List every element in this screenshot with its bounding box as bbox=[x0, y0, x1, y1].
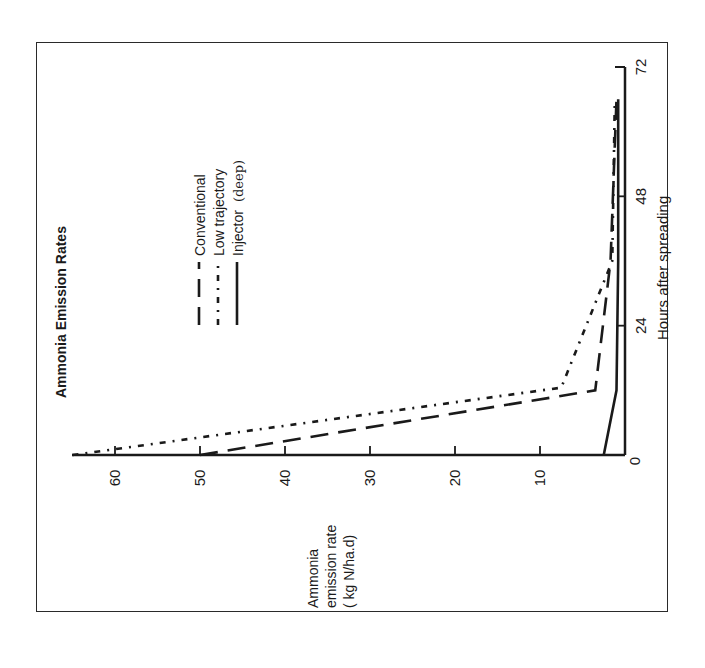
zero-label: 0 bbox=[626, 457, 643, 465]
series-lines bbox=[73, 99, 619, 455]
rate-tick-label: 40 bbox=[276, 470, 293, 487]
legend-label-suffix: (deep) bbox=[231, 160, 246, 202]
hour-tick-label: 24 bbox=[632, 317, 649, 334]
legend: Conventional Low trajectory Injector(dee… bbox=[192, 160, 246, 325]
chart-title: Ammonia Emission Rates bbox=[53, 226, 69, 398]
rate-ticks bbox=[115, 446, 540, 455]
rate-tick-labels: 102030405060 bbox=[106, 470, 548, 487]
legend-label-main: Injector bbox=[230, 210, 246, 256]
hour-tick-label: 48 bbox=[632, 188, 649, 205]
legend-item-conventional: Conventional bbox=[192, 174, 208, 325]
rate-tick-label: 30 bbox=[361, 470, 378, 487]
y-axis-label-line1: Ammonia bbox=[305, 549, 321, 608]
x-axis-label: Hours after spreading bbox=[654, 196, 671, 340]
rate-tick-label: 50 bbox=[191, 470, 208, 487]
rate-tick-label: 10 bbox=[531, 470, 548, 487]
legend-item-injector: Injector(deep) bbox=[230, 160, 246, 325]
series-line-injector-deep bbox=[604, 99, 618, 455]
rate-tick-label: 20 bbox=[446, 470, 463, 487]
hour-tick-label: 72 bbox=[632, 59, 649, 76]
series-line-conventional bbox=[200, 99, 617, 455]
y-axis-label-line2: emission rate bbox=[323, 525, 339, 608]
legend-label: Conventional bbox=[192, 174, 208, 256]
rate-tick-label: 60 bbox=[106, 470, 123, 487]
y-axis-label-line3: ( kg N/ha.d) bbox=[341, 535, 357, 608]
legend-label: Low trajectory bbox=[211, 169, 227, 256]
hour-tick-labels: 244872 bbox=[632, 59, 649, 334]
legend-label: Injector(deep) bbox=[230, 160, 246, 256]
chart-svg: 102030405060 244872 0 Ammonia Emission R… bbox=[0, 0, 705, 668]
legend-item-low-trajectory: Low trajectory bbox=[211, 169, 227, 325]
axes bbox=[72, 67, 625, 455]
